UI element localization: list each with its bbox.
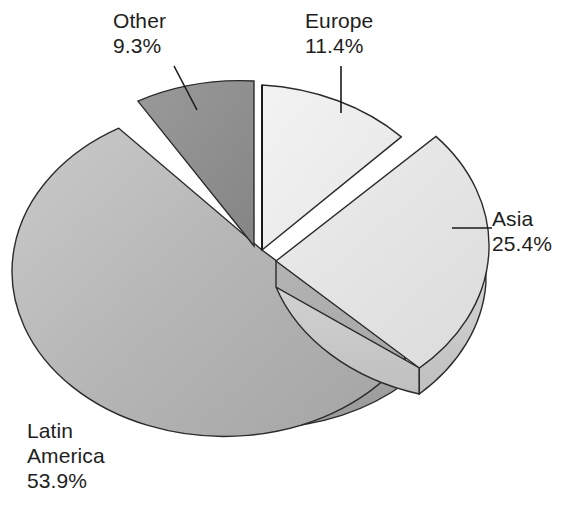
slice-label-europe-percent: 11.4% bbox=[305, 33, 373, 58]
slice-label-asia-percent: 25.4% bbox=[492, 231, 552, 256]
slice-label-europe-name: Europe bbox=[305, 8, 373, 33]
slice-label-asia-name: Asia bbox=[492, 206, 552, 231]
slice-label-latin-america-percent: 53.9% bbox=[27, 468, 105, 493]
slice-label-latin-america: Latin America 53.9% bbox=[27, 418, 105, 493]
slice-label-other-name: Other bbox=[113, 8, 166, 33]
pie-chart-figure: Other 9.3% Europe 11.4% Asia 25.4% Latin… bbox=[0, 0, 585, 515]
slice-label-latin-america-line2: America bbox=[27, 443, 105, 468]
slice-label-latin-america-line1: Latin bbox=[27, 418, 105, 443]
slice-label-other-percent: 9.3% bbox=[113, 33, 166, 58]
slice-label-other: Other 9.3% bbox=[113, 8, 166, 58]
slice-label-europe: Europe 11.4% bbox=[305, 8, 373, 58]
slice-label-asia: Asia 25.4% bbox=[492, 206, 552, 256]
